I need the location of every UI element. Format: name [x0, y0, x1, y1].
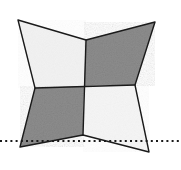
star-figure-svg	[0, 0, 181, 170]
figure-canvas	[0, 0, 181, 170]
bottom-left-quadrant	[20, 86, 84, 147]
